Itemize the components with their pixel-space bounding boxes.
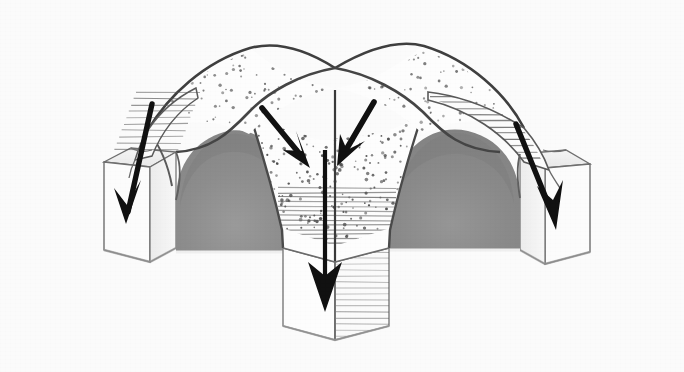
left-pier-side-face <box>150 152 176 262</box>
figure-root: Groin vault thrust diagram Axonometric l… <box>0 0 684 372</box>
groin-vault-illustration <box>0 0 684 372</box>
